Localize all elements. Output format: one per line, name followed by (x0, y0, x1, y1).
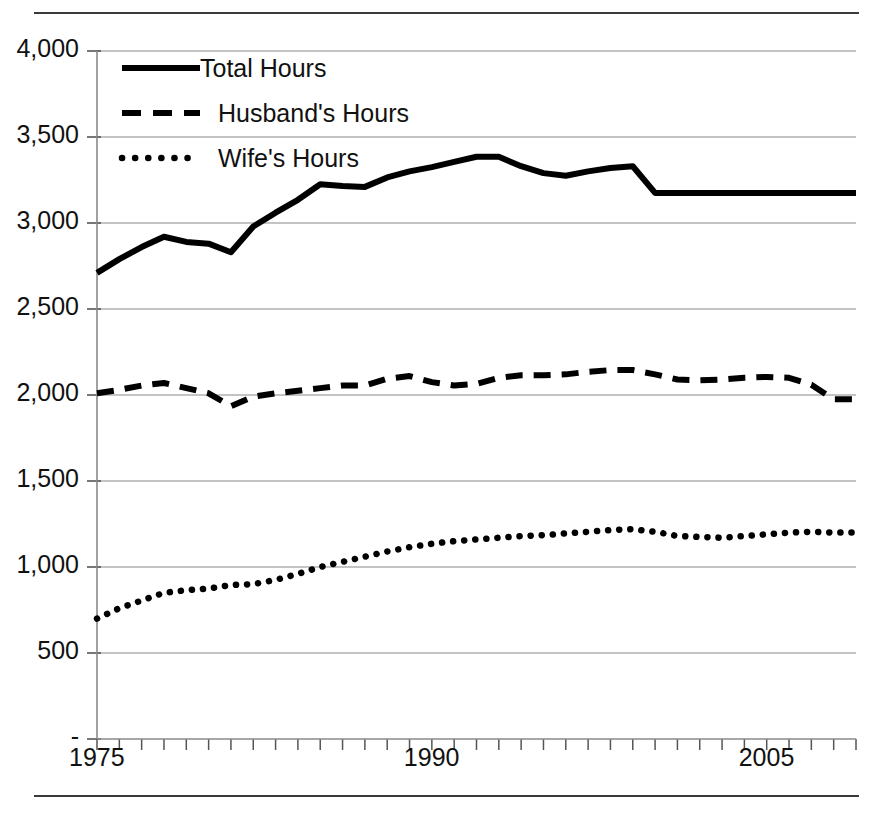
x-axis-label: 1990 (404, 743, 460, 772)
series-line-3 (97, 529, 856, 618)
gridlines-group (87, 51, 856, 739)
x-axis-label: 1975 (69, 743, 125, 772)
y-axis-label: 2,500 (16, 292, 79, 321)
series-line-1 (97, 157, 856, 273)
legend-label-1: Total Hours (200, 54, 326, 82)
y-axis-label: 1,500 (16, 464, 79, 493)
y-axis-label: 1,000 (16, 550, 79, 579)
data-series-group (97, 157, 856, 619)
y-axis-label: 2,000 (16, 378, 79, 407)
x-axis-label: 2005 (739, 743, 795, 772)
line-chart-svg: Total HoursHusband's HoursWife's Hours (0, 0, 873, 823)
legend: Total HoursHusband's HoursWife's Hours (122, 54, 409, 172)
series-line-2 (97, 370, 856, 406)
y-axis-label: 500 (37, 636, 79, 665)
legend-label-2: Husband's Hours (218, 99, 409, 127)
plot-area: Total HoursHusband's HoursWife's Hours (0, 0, 873, 823)
y-axis-label: 3,500 (16, 120, 79, 149)
y-axis-label: 3,000 (16, 206, 79, 235)
legend-label-3: Wife's Hours (218, 144, 359, 172)
y-axis-label: 4,000 (16, 34, 79, 63)
chart-figure: Total HoursHusband's HoursWife's Hours -… (0, 0, 873, 823)
